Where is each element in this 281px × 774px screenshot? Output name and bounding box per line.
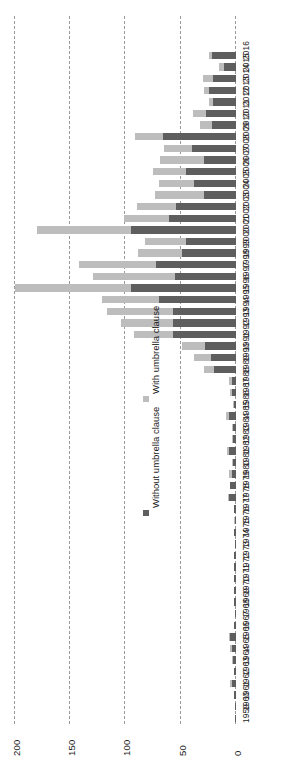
bar-row: 1975 [0,526,281,538]
bar-row: 1971 [0,573,281,585]
bar-segment-without-umbrella-clause [131,284,236,291]
stacked-bar [234,691,236,698]
bar-segment-without-umbrella-clause [234,691,236,698]
bar-segment-without-umbrella-clause [235,610,236,617]
stacked-bar [229,377,236,384]
stacked-bar [203,75,236,82]
bar-row: 2010 [0,119,281,131]
bar-segment-with-umbrella-clause [102,296,158,303]
bar-row: 2011 [0,108,281,120]
bar-segment-with-umbrella-clause [232,436,233,443]
bar-row: 1963 [0,666,281,678]
bar-row: 1994 [0,305,281,317]
bar-segment-without-umbrella-clause [233,656,236,663]
bar-row: 1999 [0,247,281,259]
stacked-bar [234,552,236,559]
bar-segment-without-umbrella-clause [230,633,236,640]
stacked-bar [234,668,236,675]
stacked-bar [226,412,236,419]
bar-segment-without-umbrella-clause [234,563,236,570]
bar-row: 1967 [0,619,281,631]
bar-row: 2012 [0,96,281,108]
bar-segment-without-umbrella-clause [234,587,236,594]
stacked-bar [159,180,236,187]
stacked-bar [204,366,236,373]
stacked-bar [145,238,236,245]
stacked-bar [155,191,236,198]
stacked-bar [235,610,236,617]
bar-row: 2015 [0,61,281,73]
bar-row: 2016 [0,50,281,62]
bar-segment-without-umbrella-clause [194,180,236,187]
bar-segment-without-umbrella-clause [209,87,236,94]
bar-segment-with-umbrella-clause [233,401,234,408]
bar-segment-with-umbrella-clause [203,75,213,82]
bar-segment-without-umbrella-clause [173,331,236,338]
bar-row: 1982 [0,445,281,457]
bar-segment-without-umbrella-clause [234,401,236,408]
bar-segment-with-umbrella-clause [138,249,182,256]
stacked-bar [230,645,236,652]
stacked-bar [121,319,236,326]
stacked-bar [229,633,236,640]
x-tick-label-50: 50 [177,745,188,756]
stacked-bar [209,98,236,105]
stacked-bar [232,436,236,443]
bar-segment-with-umbrella-clause [37,226,131,233]
bar-row: 1970 [0,584,281,596]
stacked-bar [234,529,236,536]
stacked-bar [219,63,236,70]
bar-row: 2002 [0,212,281,224]
bar-segment-without-umbrella-clause [232,377,236,384]
stacked-bar [234,587,236,594]
bar-segment-without-umbrella-clause [230,482,236,489]
bar-row: 2013 [0,84,281,96]
stacked-bar [79,261,236,268]
bar-row: 1968 [0,608,281,620]
bar-row: 2005 [0,177,281,189]
stacked-bar [234,517,236,524]
bar-segment-with-umbrella-clause [121,319,173,326]
bar-segment-with-umbrella-clause [232,424,233,431]
bar-segment-with-umbrella-clause [200,121,212,128]
bar-segment-without-umbrella-clause [235,517,236,524]
bar-segment-without-umbrella-clause [232,389,236,396]
bar-segment-with-umbrella-clause [227,447,229,454]
bar-segment-with-umbrella-clause [231,645,232,652]
bar-row: 1981 [0,457,281,469]
bar-segment-with-umbrella-clause [229,633,230,640]
bar-row: 1962 [0,678,281,690]
stacked-bar [229,470,236,477]
bar-segment-without-umbrella-clause [175,273,236,280]
bar-row: 1985 [0,410,281,422]
x-tick-label-200: 200 [11,740,22,756]
bar-segment-without-umbrella-clause [205,342,236,349]
bar-row: 1972 [0,561,281,573]
stacked-bar [235,715,236,722]
bar-segment-without-umbrella-clause [213,75,236,82]
bar-segment-with-umbrella-clause [135,133,163,140]
stacked-bar [124,215,236,222]
bar-row: 2006 [0,166,281,178]
bar-segment-without-umbrella-clause [212,52,236,59]
bar-segment-with-umbrella-clause [232,656,233,663]
bar-row: 1980 [0,468,281,480]
bar-segment-without-umbrella-clause [233,459,236,466]
bar-row: 1977 [0,503,281,515]
bar-segment-without-umbrella-clause [234,529,236,536]
bar-segment-without-umbrella-clause [229,412,236,419]
bar-row: 1993 [0,317,281,329]
bar-segment-without-umbrella-clause [176,203,236,210]
bar-segment-with-umbrella-clause [210,52,212,59]
bar-row: 1969 [0,596,281,608]
stacked-bar [230,482,236,489]
bar-row: 1973 [0,550,281,562]
bar-segment-without-umbrella-clause [234,505,236,512]
bar-segment-without-umbrella-clause [204,191,236,198]
stacked-bar [232,424,236,431]
bar-segment-without-umbrella-clause [182,249,236,256]
bar-row: 1984 [0,422,281,434]
stacked-bar [234,575,236,582]
bar-row: 1998 [0,259,281,271]
bar-row: 2003 [0,201,281,213]
